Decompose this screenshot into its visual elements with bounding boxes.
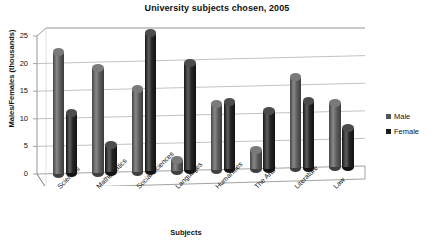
bar-series-layer bbox=[0, 16, 372, 186]
bar-top-ellipse bbox=[224, 98, 236, 106]
bar-top-ellipse bbox=[250, 146, 262, 154]
bar-male-languages bbox=[171, 156, 183, 171]
x-axis-title: Subjects bbox=[0, 228, 372, 237]
chart-legend: MaleFemale bbox=[386, 113, 419, 142]
bar-body bbox=[263, 111, 275, 169]
bar-male-the-arts bbox=[250, 146, 262, 169]
bar-female-law bbox=[342, 124, 354, 167]
legend-item-male[interactable]: Male bbox=[386, 113, 419, 121]
bar-male-humanities bbox=[211, 100, 223, 170]
legend-swatch-icon bbox=[386, 129, 391, 134]
bar-male-literature bbox=[290, 73, 302, 168]
bar-top-ellipse bbox=[171, 156, 183, 164]
bar-top-ellipse bbox=[342, 124, 354, 132]
bar-top-ellipse bbox=[290, 73, 302, 81]
bar-female-humanities bbox=[224, 98, 236, 169]
chart-title: University subjects chosen, 2005 bbox=[0, 3, 434, 13]
bar-male-law bbox=[329, 99, 341, 166]
legend-label: Female bbox=[394, 128, 419, 136]
bar-body bbox=[105, 145, 117, 173]
bar-body bbox=[224, 102, 236, 169]
bar-male-mathematics bbox=[92, 64, 104, 173]
bar-body bbox=[290, 77, 302, 168]
bar-body bbox=[53, 52, 65, 173]
bar-female-literature bbox=[303, 97, 315, 167]
bar-top-ellipse bbox=[211, 100, 223, 108]
bar-female-sciences bbox=[66, 109, 78, 174]
bar-body bbox=[132, 89, 144, 172]
bar-body bbox=[184, 63, 196, 171]
bar-top-ellipse bbox=[263, 107, 275, 115]
bar-top-ellipse bbox=[92, 64, 104, 72]
bar-female-social-sciences bbox=[145, 29, 157, 171]
bar-male-sciences bbox=[53, 48, 65, 173]
bar-female-mathematics bbox=[105, 141, 117, 173]
legend-item-female[interactable]: Female bbox=[386, 128, 419, 136]
bar-top-ellipse bbox=[66, 109, 78, 117]
bar-body bbox=[329, 103, 341, 166]
plot-area: 0510152025 Males/Females (thousands) bbox=[0, 16, 372, 186]
bar-top-ellipse bbox=[184, 59, 196, 67]
chart-container: University subjects chosen, 2005 bbox=[0, 0, 434, 247]
bar-body bbox=[145, 33, 157, 171]
bar-body bbox=[342, 128, 354, 167]
bar-body bbox=[66, 113, 78, 174]
bar-female-the-arts bbox=[263, 107, 275, 169]
bar-body bbox=[211, 104, 223, 170]
bar-body bbox=[92, 68, 104, 173]
legend-swatch-icon bbox=[386, 114, 391, 119]
legend-label: Male bbox=[394, 113, 410, 121]
bar-body bbox=[303, 101, 315, 167]
bar-male-social-sciences bbox=[132, 85, 144, 172]
bar-female-languages bbox=[184, 59, 196, 171]
x-axis-tick-labels: SciencesMathematicsSocial SciencesLangua… bbox=[0, 181, 372, 227]
bar-top-ellipse bbox=[132, 85, 144, 93]
bar-top-ellipse bbox=[105, 141, 117, 149]
